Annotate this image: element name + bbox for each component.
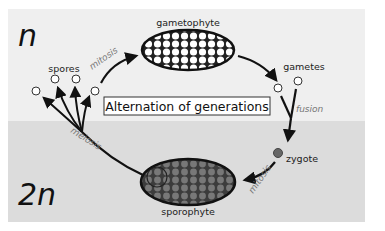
spores-label: spores (48, 63, 79, 74)
sporophyte-shape (141, 159, 235, 205)
sporophyte-label: sporophyte (161, 206, 215, 217)
gamete (294, 77, 302, 85)
spore (32, 87, 40, 95)
spore (51, 75, 59, 83)
diagram-title: Alternation of generations (105, 99, 269, 114)
spore (72, 75, 80, 83)
gametophyte-shape (142, 30, 234, 70)
gamete (274, 84, 282, 92)
haploid-label: n (18, 18, 37, 53)
zygote (274, 149, 283, 158)
alternation-of-generations-diagram: n 2n gametophyte sporophyte Alternation … (0, 0, 385, 231)
gametes-label: gametes (283, 61, 325, 72)
diploid-label: 2n (18, 177, 56, 212)
fusion-label: fusion (296, 104, 324, 114)
zygote-label: zygote (286, 153, 318, 164)
gametophyte-label: gametophyte (156, 17, 220, 28)
spore (91, 87, 99, 95)
